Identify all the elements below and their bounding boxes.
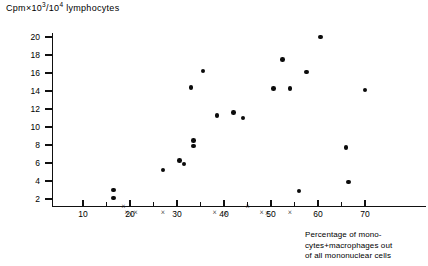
x-tick-label: 60 xyxy=(307,209,329,219)
x-tick-label: 30 xyxy=(166,209,188,219)
data-point-circle xyxy=(191,144,196,149)
x-minor-tick-mark xyxy=(106,202,107,206)
data-point-circle xyxy=(201,69,206,74)
data-point-circle xyxy=(318,35,323,40)
data-point-cross: × xyxy=(264,210,271,217)
x-tick-mark xyxy=(317,200,318,206)
data-point-cross: × xyxy=(132,209,139,216)
y-tick-label: 8 xyxy=(14,140,40,150)
y-axis-label: Cpm×103/104 lymphocytes xyxy=(6,1,119,13)
data-point-circle xyxy=(189,85,194,90)
data-point-circle xyxy=(177,158,182,163)
y-tick-label: 10 xyxy=(14,122,40,132)
x-minor-tick-mark xyxy=(341,202,342,206)
data-point-circle xyxy=(297,189,302,194)
y-tick-label: 20 xyxy=(14,32,40,42)
data-point-cross: × xyxy=(222,210,229,217)
data-point-circle xyxy=(304,70,309,75)
x-tick-label: 70 xyxy=(354,209,376,219)
data-point-circle xyxy=(280,57,285,62)
y-tick-label: 14 xyxy=(14,86,40,96)
y-tick-mark xyxy=(45,90,52,91)
y-tick-label: 6 xyxy=(14,158,40,168)
data-point-circle xyxy=(215,113,220,118)
y-tick-mark xyxy=(45,180,52,181)
y-tick-mark xyxy=(45,54,52,55)
data-point-cross: × xyxy=(159,209,166,216)
data-point-circle xyxy=(363,88,368,93)
data-point-circle xyxy=(111,196,116,201)
data-point-circle xyxy=(346,180,351,185)
data-point-circle xyxy=(161,168,166,173)
data-point-circle xyxy=(111,188,116,193)
x-tick-mark xyxy=(129,200,130,206)
y-tick-label: 2 xyxy=(14,194,40,204)
y-tick-mark xyxy=(45,36,52,37)
x-tick-mark xyxy=(270,200,271,206)
y-tick-label: 16 xyxy=(14,68,40,78)
x-tick-mark xyxy=(176,200,177,206)
data-point-cross: × xyxy=(286,209,293,216)
data-point-circle xyxy=(344,145,349,150)
y-tick-mark xyxy=(45,198,52,199)
y-tick-mark xyxy=(45,162,52,163)
y-tick-label: 12 xyxy=(14,104,40,114)
data-point-cross: × xyxy=(211,209,218,216)
scatter-plot-figure: Cpm×103/104 lymphocytes 2468101214161820… xyxy=(0,0,428,266)
data-point-circle xyxy=(271,86,276,91)
data-point-circle xyxy=(191,138,196,143)
data-point-circle xyxy=(231,110,236,115)
data-point-circle xyxy=(288,86,293,91)
data-point-circle xyxy=(182,162,187,167)
y-tick-label: 18 xyxy=(14,50,40,60)
x-tick-mark xyxy=(82,200,83,206)
data-point-cross: × xyxy=(244,203,251,210)
y-tick-mark xyxy=(45,108,52,109)
x-minor-tick-mark xyxy=(153,202,154,206)
y-tick-label: 4 xyxy=(14,176,40,186)
data-point-circle xyxy=(241,116,246,121)
x-tick-mark xyxy=(364,200,365,206)
x-axis-line xyxy=(52,206,426,207)
y-tick-mark xyxy=(45,144,52,145)
x-tick-label: 10 xyxy=(72,209,94,219)
y-axis-line xyxy=(52,33,53,207)
x-minor-tick-mark xyxy=(200,202,201,206)
y-tick-mark xyxy=(45,126,52,127)
x-minor-tick-mark xyxy=(294,202,295,206)
y-tick-mark xyxy=(45,72,52,73)
x-axis-caption: Percentage of mono- cytes+macrophages ou… xyxy=(305,230,428,262)
x-tick-mark xyxy=(223,200,224,206)
